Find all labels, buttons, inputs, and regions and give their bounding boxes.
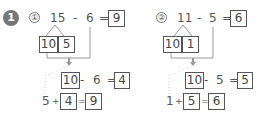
problem-2-step2-plus: + — [175, 94, 183, 108]
problem-2-answer-box[interactable]: 6 — [230, 10, 247, 27]
problem-1-step2-addend-box[interactable]: 4 — [60, 93, 77, 110]
problem-1-step2-addend: 5 — [42, 94, 50, 108]
problem-2-minus: - — [197, 11, 201, 25]
problem-2-split-ten-box[interactable]: 10 — [163, 36, 182, 53]
problem-1-split-ten-box[interactable]: 10 — [39, 36, 58, 53]
problem-2-step1-ten-box[interactable]: 10 — [185, 72, 204, 89]
problem-1-step2-plus: + — [52, 94, 60, 108]
problem-1-minuend: 15 — [50, 11, 65, 25]
problem-2-minuend: 11 — [177, 11, 192, 25]
problem-2-step1-subtrahend: 5 — [216, 73, 224, 87]
problem-2-step2-addend-box[interactable]: 5 — [183, 93, 200, 110]
problem-2-label: ② — [156, 12, 167, 23]
problem-1-step1-minus: - — [80, 73, 84, 87]
problem-1-label: ① — [29, 12, 40, 23]
problem-2-step1-result-box[interactable]: 5 — [237, 72, 253, 89]
problem-1-minus: - — [73, 11, 77, 25]
problem-2-subtrahend: 5 — [209, 11, 217, 25]
problem-1-answer-box[interactable]: 9 — [108, 10, 125, 27]
problem-1-step1-ten-box[interactable]: 10 — [61, 72, 80, 89]
problem-1-subtrahend: 6 — [86, 11, 94, 25]
problem-1-split-rest-box[interactable]: 5 — [58, 36, 75, 53]
problem-2-step2-addend: 1 — [166, 94, 174, 108]
problem-1-step1-result-box[interactable]: 4 — [114, 72, 130, 89]
problem-2-split-rest-box[interactable]: 1 — [182, 36, 199, 53]
problem-2-step2-result-box[interactable]: 6 — [208, 93, 225, 110]
section-number-badge: 1 — [3, 10, 19, 26]
problem-1-step1-subtrahend: 6 — [93, 73, 101, 87]
problem-2-step1-minus: - — [204, 73, 208, 87]
problem-1-step2-result-box[interactable]: 9 — [85, 93, 102, 110]
